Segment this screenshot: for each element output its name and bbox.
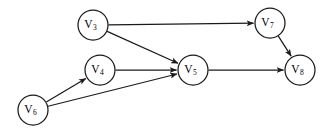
graph-canvas: V3V7V4V5V8V6 [0, 0, 320, 135]
node-subscript-v6: 6 [33, 108, 37, 117]
nodes-layer: V3V7V4V5V8V6 [18, 8, 315, 125]
graph-edge-v3-to-v5 [107, 31, 178, 63]
graph-node-v7[interactable]: V7 [255, 8, 285, 38]
node-subscript-v7: 7 [270, 21, 274, 30]
graph-edge-v7-to-v8 [278, 36, 291, 56]
graph-node-v8[interactable]: V8 [285, 55, 315, 85]
graph-node-v5[interactable]: V5 [178, 55, 208, 85]
graph-node-v3[interactable]: V3 [78, 10, 108, 40]
node-subscript-v8: 8 [300, 68, 304, 77]
node-subscript-v4: 4 [100, 68, 104, 77]
graph-node-v6[interactable]: V6 [18, 95, 48, 125]
node-subscript-v5: 5 [193, 68, 197, 77]
directed-graph-svg: V3V7V4V5V8V6 [0, 0, 320, 135]
graph-edge-v3-to-v7 [109, 23, 254, 25]
node-subscript-v3: 3 [93, 23, 97, 32]
graph-node-v4[interactable]: V4 [85, 55, 115, 85]
